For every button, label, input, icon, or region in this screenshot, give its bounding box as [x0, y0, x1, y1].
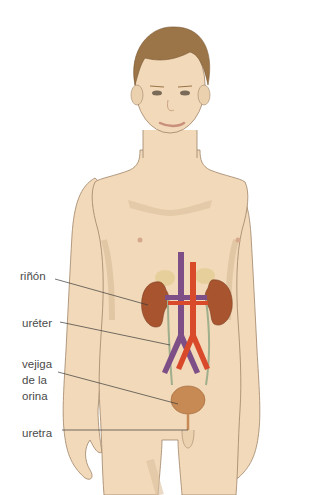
- label-bladder-line2: de la: [22, 372, 62, 388]
- bladder: [171, 386, 205, 414]
- label-urethra: uretra: [22, 425, 52, 441]
- label-ureter: uréter: [22, 315, 52, 331]
- label-bladder-line1: vejiga: [22, 356, 62, 372]
- head: [131, 27, 210, 133]
- label-bladder: vejiga de la orina: [22, 356, 62, 404]
- label-kidney: riñón: [20, 268, 46, 284]
- urinary-system-illustration: [0, 0, 323, 495]
- label-bladder-line3: orina: [22, 388, 62, 404]
